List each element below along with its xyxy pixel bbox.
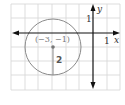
y-tick-label: 1 [86,15,92,24]
center-point [51,45,55,49]
radius-label: 2 [56,56,62,65]
x-axis-label: x [114,36,119,45]
x-tick-label: 1 [104,37,110,46]
coordinate-plane-svg [0,0,125,105]
x-axis-left-arrow-icon [12,31,19,36]
center-label: (−3, −1) [35,36,70,44]
y-axis-up-arrow-icon [91,4,96,11]
coordinate-plane-figure: y 1 1 x (−3, −1) 2 [0,0,125,105]
grid-lines [11,4,120,90]
y-axis-label: y [97,5,102,14]
y-axis-down-arrow-icon [91,82,96,89]
